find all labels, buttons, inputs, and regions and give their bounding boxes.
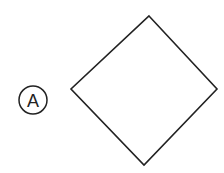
label-letter: A [27,91,39,111]
diagram-canvas: A [0,0,224,173]
circled-label: A [19,86,47,114]
diamond-shape [71,16,217,165]
